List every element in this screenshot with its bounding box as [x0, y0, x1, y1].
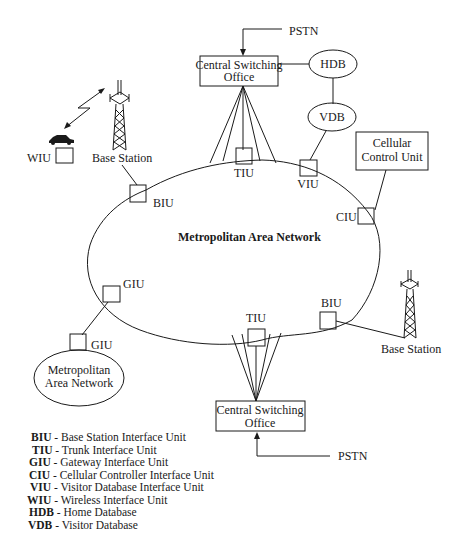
cso-top-label-2: Office	[224, 70, 254, 84]
tower-icon-left	[110, 80, 129, 150]
tiu-bottom-box	[248, 329, 265, 346]
ccu-label-2: Control Unit	[361, 150, 423, 164]
legend-item: CIU - Cellular Controller Interface Unit	[26, 469, 214, 482]
base-station-left-label: Base Station	[92, 151, 152, 165]
legend-abbr: HDB	[29, 506, 54, 518]
giu-ring-label: GIU	[123, 277, 145, 291]
cso-bottom-label-1: Central Switching	[217, 403, 304, 417]
legend-abbr: VIU	[30, 481, 51, 493]
legend-item: HDB - Home Database	[26, 506, 214, 519]
legend-desc: - Wireless Interface Unit	[51, 494, 167, 506]
biu-left-label: BIU	[153, 196, 174, 210]
man-small-label-1: Metropolitan	[48, 363, 111, 377]
pstn-top-label: PSTN	[289, 24, 319, 38]
legend-abbr: VDB	[28, 519, 52, 531]
legend-item: VIU - Visitor Database Interface Unit	[26, 481, 214, 494]
legend-item: VDB - Visitor Database	[26, 519, 214, 532]
legend-desc: - Visitor Database Interface Unit	[51, 481, 204, 493]
hdb-label: HDB	[320, 57, 345, 71]
ciu-label: CIU	[336, 210, 357, 224]
legend-abbr: CIU	[29, 469, 50, 481]
pstn-bottom-label: PSTN	[338, 449, 368, 463]
wiu-box	[56, 148, 73, 163]
legend-desc: - Visitor Database	[52, 519, 138, 531]
legend-desc: - Home Database	[54, 506, 137, 518]
legend-desc: - Cellular Controller Interface Unit	[50, 469, 214, 481]
biu-right-label: BIU	[321, 296, 342, 310]
legend-abbr: WIU	[27, 494, 51, 506]
legend: BIU - Base Station Interface Unit TIU - …	[26, 431, 214, 531]
vdb-label: VDB	[319, 110, 344, 124]
tower-icon-right	[401, 270, 418, 338]
viu-label: VIU	[297, 177, 319, 191]
tiu-bottom-label: TIU	[246, 311, 266, 325]
legend-item: GIU - Gateway Interface Unit	[26, 456, 214, 469]
ccu-label-1: Cellular	[373, 136, 412, 150]
legend-desc: - Base Station Interface Unit	[51, 431, 185, 443]
cso-bottom-label-2: Office	[245, 416, 275, 430]
car-icon	[49, 135, 74, 145]
giu-man-label: GIU	[91, 338, 113, 352]
legend-abbr: BIU	[31, 431, 51, 443]
ciu-box	[358, 208, 374, 224]
legend-desc: - Gateway Interface Unit	[51, 456, 169, 468]
legend-desc: - Trunk Interface Unit	[52, 444, 156, 456]
legend-item: TIU - Trunk Interface Unit	[26, 444, 214, 457]
base-station-right-label: Base Station	[381, 342, 441, 356]
biu-right-box	[320, 312, 336, 329]
man-center-label: Metropolitan Area Network	[178, 230, 321, 244]
legend-abbr: GIU	[29, 456, 51, 468]
wiu-label: WIU	[27, 151, 51, 165]
legend-item: BIU - Base Station Interface Unit	[26, 431, 214, 444]
man-small-label-2: Area Network	[45, 376, 113, 390]
legend-item: WIU - Wireless Interface Unit	[26, 494, 214, 507]
giu-man-box	[70, 334, 86, 350]
giu-ring-box	[103, 286, 120, 302]
tiu-top-label: TIU	[234, 166, 254, 180]
legend-abbr: TIU	[32, 444, 52, 456]
